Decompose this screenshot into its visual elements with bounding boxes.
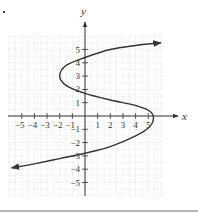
x-tick-label: −3 [40,120,50,130]
y-tick-label: 5 [76,45,81,55]
x-axis-label: x [181,110,187,122]
y-tick-label: 1 [76,98,81,108]
x-tick-label: 2 [108,120,113,130]
x-tick-label: 4 [133,120,138,130]
x-tick-label: 3 [121,120,126,130]
x-tick-label: −5 [15,120,25,130]
y-tick-label: −4 [70,164,80,174]
divider [0,210,198,212]
y-tick-label: −2 [70,138,80,148]
x-tick-label: −4 [28,120,38,130]
y-axis-label: y [80,5,86,17]
y-tick-label: 2 [76,84,81,94]
x-tick-label: −2 [53,120,63,130]
axes [8,22,178,196]
y-tick-label: 3 [76,71,81,81]
x-tick-label: 1 [95,120,100,130]
y-tick-label: −5 [70,178,80,188]
y-tick-label: −1 [70,124,80,134]
graph: −5−4−3−2−11234554321−1−2−3−4−5 x y [0,0,198,213]
